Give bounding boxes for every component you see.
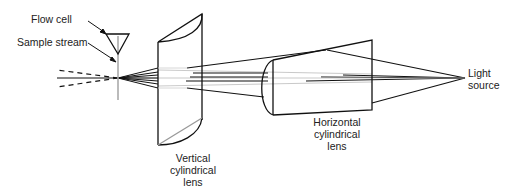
horizontal-lens-label-line1: Horizontal — [302, 116, 372, 128]
beam-between-lenses — [186, 50, 326, 97]
sample-stream-label: Sample stream — [17, 36, 88, 48]
vertical-lens-label: Vertical cylindrical lens — [158, 152, 228, 188]
horizontal-lens-label: Horizontal cylindrical lens — [302, 116, 372, 152]
vertical-lens-label-line1: Vertical — [158, 152, 228, 164]
light-source-label-line2: source — [468, 79, 500, 91]
light-source-rays — [306, 50, 465, 103]
light-source-label-line1: Light — [468, 67, 500, 79]
diverging-beam — [57, 70, 118, 87]
faint-axis-rays — [118, 70, 465, 86]
flow-cell-label: Flow cell — [31, 13, 72, 25]
vertical-lens-label-line3: lens — [158, 176, 228, 188]
vertical-cylindrical-lens — [158, 14, 202, 145]
converging-beam — [118, 68, 158, 88]
vertical-lens-label-line2: cylindrical — [158, 164, 228, 176]
light-source-label: Light source — [468, 67, 500, 91]
optical-diagram — [0, 0, 515, 191]
label-arrows — [88, 21, 116, 62]
horizontal-lens-label-line3: lens — [302, 140, 372, 152]
horizontal-lens-label-line2: cylindrical — [302, 128, 372, 140]
